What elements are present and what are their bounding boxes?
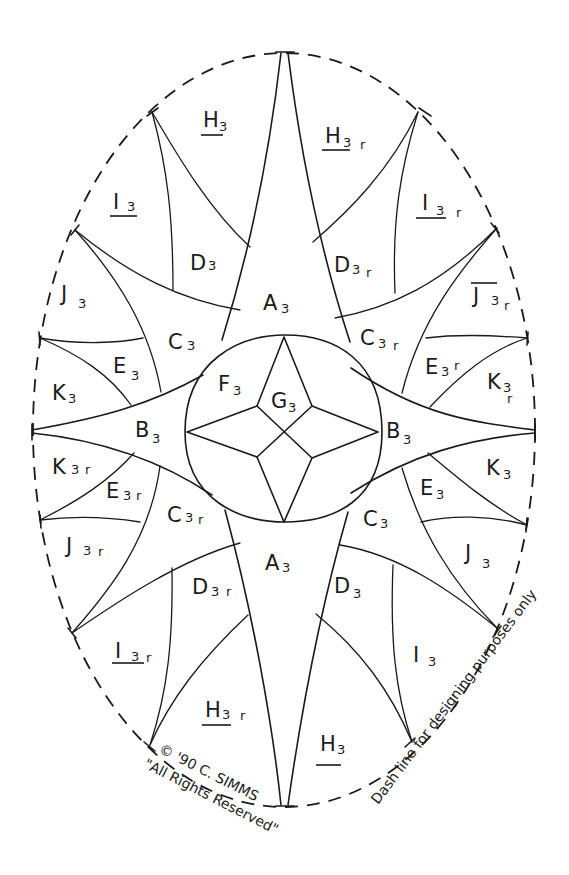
svg-text:D: D	[192, 575, 208, 599]
svg-text:r: r	[366, 265, 372, 280]
svg-text:I: I	[413, 643, 419, 667]
svg-text:H: H	[205, 698, 221, 722]
label-C3r-ll: C3r	[167, 503, 204, 527]
svg-text:D: D	[190, 251, 206, 275]
label-H3-ul: H3	[201, 108, 227, 135]
svg-text:3: 3	[152, 431, 160, 446]
label-B3-right: B3	[386, 419, 411, 447]
svg-text:r: r	[136, 488, 142, 503]
label-K3r-ur: K3r	[487, 370, 513, 406]
svg-text:3: 3	[282, 560, 290, 575]
svg-text:3: 3	[208, 258, 216, 273]
svg-text:r: r	[456, 205, 462, 220]
svg-text:3: 3	[378, 336, 386, 351]
svg-text:K: K	[487, 370, 502, 394]
svg-text:D: D	[334, 574, 350, 598]
svg-text:G: G	[271, 389, 287, 413]
svg-text:H: H	[320, 732, 336, 756]
label-H3r-ur: H3r	[322, 124, 366, 152]
svg-text:r: r	[393, 338, 399, 353]
svg-text:r: r	[98, 544, 104, 559]
svg-text:3: 3	[337, 742, 345, 757]
svg-text:H: H	[325, 124, 341, 148]
svg-text:3: 3	[187, 338, 195, 353]
svg-text:3: 3	[222, 707, 230, 722]
label-K3r-ll: K3r	[52, 455, 91, 479]
svg-text:3: 3	[482, 556, 490, 571]
svg-text:A: A	[263, 291, 278, 315]
svg-text:r: r	[504, 298, 510, 313]
quilt-diagram: H3 H3r I3 I3r D3 D3r J3 J3r	[0, 0, 569, 875]
svg-text:A: A	[265, 551, 280, 575]
label-I3-lr: I3	[413, 643, 436, 669]
svg-text:r: r	[507, 391, 513, 406]
label-I3-ul: I3	[110, 190, 137, 216]
svg-text:r: r	[198, 512, 204, 527]
label-J3-lr: J3	[463, 541, 490, 571]
label-D3r-ll: D3r	[192, 575, 232, 599]
svg-text:3: 3	[436, 487, 444, 502]
svg-text:H: H	[203, 108, 219, 132]
svg-text:3: 3	[185, 510, 193, 525]
svg-text:C: C	[363, 507, 378, 531]
label-D3-ul: D3	[190, 251, 216, 275]
svg-text:3: 3	[219, 119, 227, 134]
svg-text:3: 3	[131, 368, 139, 383]
label-B3-left: B3	[135, 418, 160, 446]
label-E3-ul: E3	[113, 354, 139, 383]
main-points-vertical	[222, 53, 350, 805]
svg-text:J: J	[59, 282, 67, 306]
svg-text:3: 3	[380, 516, 388, 531]
svg-text:3: 3	[503, 467, 511, 482]
svg-text:3: 3	[353, 586, 361, 601]
svg-text:E: E	[420, 476, 433, 500]
label-E3-lr: E3	[420, 476, 444, 502]
label-A3-bottom: A3	[265, 551, 290, 575]
svg-text:E: E	[113, 354, 126, 378]
label-J3r-ur: J3r	[471, 283, 510, 313]
svg-text:3: 3	[343, 135, 351, 150]
label-J3-ul: J3	[59, 282, 86, 311]
svg-text:3: 3	[233, 383, 241, 398]
svg-text:J: J	[471, 284, 479, 308]
svg-text:3: 3	[428, 654, 436, 669]
svg-text:B: B	[386, 419, 400, 443]
svg-text:B: B	[135, 418, 149, 442]
svg-text:3: 3	[127, 199, 135, 214]
label-E3r-ll: E3r	[106, 479, 142, 503]
label-H3-lr: H3	[316, 732, 345, 765]
label-K3-lr: K3	[486, 456, 511, 482]
label-D3r-ur: D3r	[334, 253, 372, 280]
svg-text:I: I	[113, 190, 119, 214]
svg-text:3: 3	[441, 364, 449, 379]
svg-text:K: K	[52, 381, 67, 405]
svg-text:K: K	[486, 456, 501, 480]
label-D3-lr: D3	[334, 574, 361, 601]
svg-text:C: C	[167, 503, 182, 527]
center-circle	[185, 335, 382, 522]
svg-text:3: 3	[68, 391, 76, 406]
svg-text:3: 3	[211, 584, 219, 599]
svg-text:J: J	[64, 534, 72, 558]
svg-text:3: 3	[288, 400, 296, 415]
svg-text:3: 3	[436, 203, 444, 218]
svg-text:r: r	[240, 708, 246, 723]
svg-text:3: 3	[131, 649, 139, 664]
svg-text:r: r	[360, 137, 366, 152]
label-A3-top: A3	[263, 291, 289, 316]
svg-text:K: K	[52, 455, 67, 479]
svg-text:r: r	[226, 584, 232, 599]
svg-text:3: 3	[403, 432, 411, 447]
svg-text:I: I	[115, 639, 121, 663]
label-E3r-ur: E3r	[425, 355, 460, 379]
svg-text:3: 3	[352, 262, 360, 277]
svg-text:3: 3	[491, 293, 499, 308]
label-H3r-ll: H3r	[202, 698, 246, 725]
label-I3r-ll: I3r	[112, 639, 152, 665]
label-K3-ul: K3	[52, 381, 76, 406]
label-C3-lr: C3	[363, 507, 388, 531]
label-F3: F3	[218, 372, 241, 398]
svg-text:r: r	[454, 358, 460, 373]
svg-text:I: I	[422, 191, 428, 215]
label-I3r-ur: I3r	[416, 191, 462, 220]
